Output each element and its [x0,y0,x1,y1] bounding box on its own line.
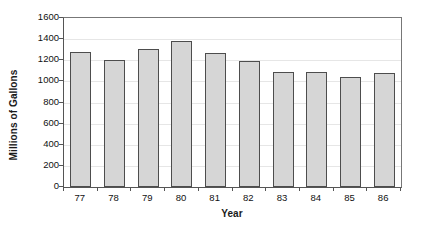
y-axis-tick-mark [59,165,63,166]
x-axis-tick-mark [164,187,165,191]
x-axis-tick-label: 78 [99,192,129,204]
x-axis-tick-label: 84 [301,192,331,204]
x-axis-tick-label: 82 [233,192,263,204]
y-axis-tick-labels: 02004006008001000120014001600 [26,10,59,193]
x-axis-title: Year [63,208,401,219]
bar [70,52,91,187]
y-axis-tick-label: 400 [26,139,59,149]
bar [340,77,361,187]
bar [171,41,192,187]
y-axis-tick-label: 1200 [26,54,59,64]
y-axis-tick-mark [59,38,63,39]
bar-chart-figure: Millions of Gallons 02004006008001000120… [0,0,421,230]
plot-area [63,17,402,188]
x-axis-tick-mark [265,187,266,191]
bar [273,72,294,187]
x-axis-tick-label: 80 [166,192,196,204]
y-axis-tick-label: 1000 [26,75,59,85]
x-axis-tick-label: 85 [334,192,364,204]
y-axis-tick-mark [59,80,63,81]
x-axis-tick-mark [400,187,401,191]
bars-layer [64,18,401,187]
bar [374,73,395,187]
y-axis-tick-mark [59,186,63,187]
x-axis-tick-label: 79 [132,192,162,204]
x-axis-tick-mark [232,187,233,191]
x-axis-tick-mark [333,187,334,191]
x-axis-tick-label: 83 [267,192,297,204]
bar [138,49,159,187]
x-axis-tick-mark [63,187,64,191]
x-axis-tick-label: 81 [200,192,230,204]
bar [239,61,260,187]
y-axis-tick-mark [59,102,63,103]
y-axis-tick-mark [59,59,63,60]
x-axis-tick-labels: 77787980818283848586 [63,192,401,205]
x-axis-tick-label: 86 [368,192,398,204]
y-axis-tick-mark [59,123,63,124]
y-axis-tick-label: 1600 [26,12,59,22]
y-axis-tick-label: 0 [26,181,59,191]
x-axis-tick-mark [130,187,131,191]
y-axis-tick-label: 800 [26,97,59,107]
y-axis-tick-label: 1400 [26,33,59,43]
y-axis-tick-label: 600 [26,118,59,128]
x-axis-tick-label: 77 [65,192,95,204]
x-axis-tick-mark [366,187,367,191]
y-axis-tick-label: 200 [26,160,59,170]
x-axis-tick-mark [299,187,300,191]
bar [104,60,125,187]
y-axis-tick-mark [59,144,63,145]
y-axis-tick-mark [59,17,63,18]
bar [306,72,327,187]
x-axis-tick-mark [198,187,199,191]
x-axis-tick-marks [63,187,401,191]
y-axis-title: Millions of Gallons [0,0,26,230]
bar [205,53,226,187]
x-axis-tick-mark [97,187,98,191]
